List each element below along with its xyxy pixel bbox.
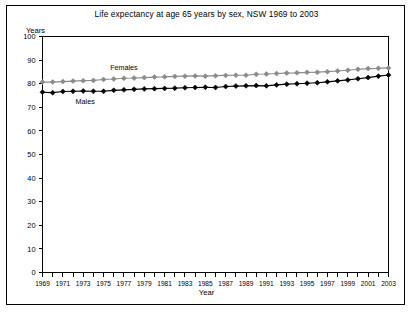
x-tick-label: 1977 <box>117 280 132 287</box>
data-point-marker <box>315 80 320 85</box>
data-point-marker <box>233 84 238 89</box>
data-point-marker <box>386 65 391 70</box>
data-point-marker <box>203 85 208 90</box>
data-point-marker <box>172 86 177 91</box>
data-point-marker <box>152 75 157 80</box>
x-tick-label: 1973 <box>76 280 91 287</box>
x-tick-label: 1995 <box>300 280 315 287</box>
data-point-marker <box>335 78 340 83</box>
data-point-marker <box>305 70 310 75</box>
y-tick-label: 100 <box>23 32 35 41</box>
data-point-marker <box>244 83 249 88</box>
x-tick-label: 1969 <box>35 280 50 287</box>
x-axis-ticks: 1969197119731975197719791981198319851987… <box>35 273 396 287</box>
data-point-marker <box>162 74 167 79</box>
data-point-marker <box>152 86 157 91</box>
data-point-marker <box>203 74 208 79</box>
y-tick-label: 90 <box>27 56 35 65</box>
data-point-marker <box>294 70 299 75</box>
data-point-marker <box>233 73 238 78</box>
y-axis-ticks: 0102030405060708090100 <box>23 32 42 277</box>
x-tick-label: 1979 <box>137 280 152 287</box>
data-point-marker <box>284 71 289 76</box>
data-point-marker <box>366 75 371 80</box>
data-point-marker <box>325 69 330 74</box>
y-tick-label: 40 <box>27 174 35 183</box>
y-tick-label: 60 <box>27 127 35 136</box>
data-point-marker <box>142 86 147 91</box>
annotation-females: Females <box>110 63 138 72</box>
x-tick-label: 1989 <box>239 280 254 287</box>
y-tick-label: 20 <box>27 221 35 230</box>
data-point-marker <box>254 83 259 88</box>
x-tick-label: 1985 <box>198 280 213 287</box>
y-tick-label: 70 <box>27 103 35 112</box>
data-point-marker <box>71 89 76 94</box>
series-annotations: FemalesMales <box>76 63 138 106</box>
y-tick-label: 30 <box>27 197 35 206</box>
data-point-marker <box>264 83 269 88</box>
data-point-marker <box>264 72 269 77</box>
data-point-marker <box>40 90 45 95</box>
data-point-marker <box>376 74 381 79</box>
data-point-marker <box>355 76 360 81</box>
data-point-marker <box>132 87 137 92</box>
data-point-marker <box>213 85 218 90</box>
data-point-marker <box>182 85 187 90</box>
data-point-marker <box>182 74 187 79</box>
y-tick-label: 50 <box>27 150 35 159</box>
y-tick-label: 0 <box>31 268 35 277</box>
annotation-males: Males <box>76 97 96 106</box>
x-tick-label: 1971 <box>56 280 71 287</box>
data-point-marker <box>172 74 177 79</box>
x-tick-label: 1997 <box>320 280 335 287</box>
data-point-marker <box>223 73 228 78</box>
data-point-marker <box>50 80 55 85</box>
data-point-marker <box>335 68 340 73</box>
chart-figure: Life expectancy at age 65 years by sex, … <box>0 0 413 313</box>
data-point-marker <box>91 78 96 83</box>
data-point-marker <box>111 76 116 81</box>
x-tick-label: 1999 <box>340 280 355 287</box>
data-point-marker <box>193 85 198 90</box>
x-tick-label: 1993 <box>279 280 294 287</box>
data-point-marker <box>254 72 259 77</box>
data-point-marker <box>315 70 320 75</box>
data-point-marker <box>60 79 65 84</box>
data-point-marker <box>345 68 350 73</box>
x-tick-label: 1975 <box>96 280 111 287</box>
data-point-marker <box>325 79 330 84</box>
x-tick-label: 2003 <box>381 280 396 287</box>
data-point-marker <box>376 66 381 71</box>
data-point-marker <box>193 73 198 78</box>
data-point-marker <box>101 77 106 82</box>
data-point-marker <box>50 90 55 95</box>
data-point-marker <box>101 89 106 94</box>
x-tick-label: 1987 <box>218 280 233 287</box>
data-point-marker <box>213 73 218 78</box>
data-point-marker <box>81 89 86 94</box>
data-point-marker <box>274 71 279 76</box>
x-tick-label: 1983 <box>178 280 193 287</box>
data-point-marker <box>244 73 249 78</box>
data-point-marker <box>71 79 76 84</box>
data-point-marker <box>111 88 116 93</box>
y-tick-label: 10 <box>27 245 35 254</box>
data-point-marker <box>284 82 289 87</box>
data-point-marker <box>355 67 360 72</box>
x-tick-label: 1981 <box>157 280 172 287</box>
data-point-marker <box>274 82 279 87</box>
data-point-marker <box>121 76 126 81</box>
data-point-marker <box>81 78 86 83</box>
data-point-marker <box>132 76 137 81</box>
data-point-marker <box>305 81 310 86</box>
x-tick-label: 2001 <box>361 280 376 287</box>
data-point-marker <box>91 89 96 94</box>
data-point-marker <box>121 87 126 92</box>
data-point-marker <box>223 84 228 89</box>
y-tick-label: 80 <box>27 79 35 88</box>
data-point-marker <box>386 72 391 77</box>
plot-area: 0102030405060708090100 19691971197319751… <box>0 0 413 313</box>
data-point-marker <box>142 75 147 80</box>
data-point-marker <box>60 89 65 94</box>
